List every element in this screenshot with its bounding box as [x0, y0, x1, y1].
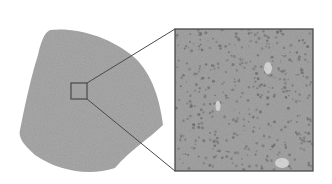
speckle-dot [267, 156, 269, 158]
speckle-dot [228, 151, 230, 153]
speckle-dot [256, 117, 258, 119]
highlight-blob [216, 101, 221, 111]
speckle-dot [248, 46, 249, 47]
speckle-dot [236, 100, 239, 103]
speckle-dot [255, 164, 258, 167]
speckle-dot [231, 55, 233, 57]
speckle-dot [252, 130, 255, 133]
speckle-dot [290, 120, 292, 122]
speckle-dot [267, 36, 269, 38]
speckle-dot [215, 41, 217, 43]
speckle-dot [200, 108, 203, 111]
speckle-dot [266, 40, 268, 42]
speckle-dot [250, 61, 252, 63]
speckle-dot [296, 121, 298, 123]
speckle-dot [299, 137, 302, 140]
speckle-dot [240, 60, 242, 62]
speckle-dot [184, 139, 186, 141]
speckle-dot [233, 55, 236, 58]
speckle-dot [284, 82, 287, 85]
speckle-dot [261, 47, 264, 50]
speckle-dot [233, 89, 235, 91]
speckle-dot [298, 55, 301, 58]
speckle-dot [257, 93, 260, 96]
speckle-dot [268, 43, 270, 45]
speckle-dot [268, 136, 271, 139]
speckle-dot [280, 32, 282, 34]
speckle-dot [303, 42, 305, 44]
speckle-dot [281, 70, 284, 73]
speckle-dot [310, 81, 312, 83]
speckle-dot [280, 129, 283, 132]
speckle-dot [285, 90, 288, 93]
speckle-dot [231, 89, 232, 90]
figure-canvas [0, 0, 332, 184]
speckle-dot [273, 76, 274, 77]
speckle-dot [248, 148, 251, 151]
speckle-dot [198, 136, 200, 138]
speckle-dot [273, 143, 276, 146]
speckle-dot [263, 135, 265, 137]
speckle-dot [209, 47, 212, 50]
speckle-dot [193, 147, 196, 150]
speckle-dot [192, 127, 195, 130]
speckle-dot [209, 139, 212, 142]
speckle-dot [250, 40, 252, 42]
speckle-dot [195, 83, 198, 86]
speckle-dot [270, 159, 273, 162]
speckle-dot [303, 148, 306, 151]
speckle-dot [199, 32, 202, 35]
speckle-dot [207, 86, 210, 89]
speckle-dot [304, 132, 306, 134]
speckle-dot [243, 130, 244, 131]
speckle-dot [234, 44, 236, 46]
speckle-dot [182, 153, 183, 154]
speckle-dot [188, 47, 190, 49]
speckle-dot [239, 78, 241, 80]
speckle-dot [287, 121, 290, 124]
speckle-dot [259, 110, 262, 113]
speckle-dot [267, 103, 269, 105]
speckle-dot [176, 66, 178, 68]
speckle-dot [241, 92, 243, 94]
speckle-dot [300, 68, 303, 71]
speckle-dot [225, 151, 227, 153]
speckle-dot [225, 97, 228, 100]
speckle-dot [202, 111, 204, 113]
speckle-dot [202, 139, 205, 142]
speckle-dot [306, 141, 308, 143]
speckle-dot [243, 66, 246, 69]
speckle-dot [236, 134, 239, 137]
speckle-dot [187, 91, 189, 93]
speckle-dot [287, 107, 290, 110]
speckle-dot [252, 116, 255, 119]
speckle-dot [254, 77, 256, 79]
speckle-dot [193, 123, 195, 125]
speckle-dot [252, 67, 255, 70]
speckle-dot [275, 36, 278, 39]
speckle-dot [264, 34, 267, 37]
speckle-dot [297, 74, 299, 76]
speckle-dot [202, 103, 205, 106]
speckle-dot [200, 44, 202, 46]
speckle-dot [200, 117, 202, 119]
speckle-dot [295, 74, 297, 76]
speckle-dot [254, 81, 256, 83]
speckle-dot [259, 128, 260, 129]
speckle-dot [295, 91, 297, 93]
speckle-dot [239, 58, 242, 61]
speckle-dot [284, 144, 286, 146]
speckle-dot [254, 33, 257, 36]
speckle-dot [198, 45, 200, 47]
speckle-dot [288, 154, 291, 157]
speckle-dot [272, 60, 274, 62]
speckle-dot [309, 84, 311, 86]
speckle-dot [235, 32, 238, 35]
speckle-dot [267, 123, 269, 125]
speckle-dot [248, 32, 250, 34]
speckle-dot [267, 75, 269, 77]
speckle-dot [257, 77, 260, 80]
speckle-dot [245, 62, 248, 65]
speckle-dot [178, 99, 180, 101]
speckle-dot [263, 84, 266, 87]
